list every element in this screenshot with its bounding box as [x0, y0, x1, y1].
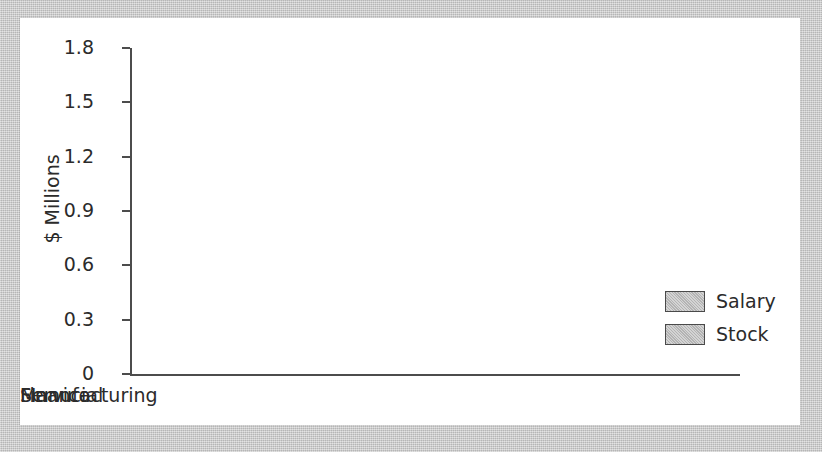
- y-axis-tick: [122, 319, 130, 321]
- y-axis-tick: [122, 156, 130, 158]
- legend-item-salary: Salary: [665, 290, 776, 312]
- y-axis-line: [130, 48, 132, 374]
- legend-swatch-icon: [665, 324, 705, 345]
- y-axis-tick-label: 0: [34, 364, 94, 383]
- y-axis-tick: [122, 264, 130, 266]
- y-axis-tick: [122, 101, 130, 103]
- legend-item-stock: Stock: [665, 323, 776, 345]
- y-axis-tick-label: 0.3: [34, 310, 94, 329]
- x-axis-line: [130, 374, 740, 376]
- y-axis-tick: [122, 47, 130, 49]
- bar-chart-plot-area: $ Millions 1.8 1.5 1.2 0.9 0.6 0.3 0 Man…: [20, 18, 800, 425]
- y-axis-tick: [122, 373, 130, 375]
- legend-swatch-icon: [665, 291, 705, 312]
- chart-figure: $ Millions 1.8 1.5 1.2 0.9 0.6 0.3 0 Man…: [20, 18, 800, 425]
- y-axis-tick-label: 1.2: [34, 147, 94, 166]
- x-axis-category-label: Service: [20, 384, 90, 406]
- y-axis-tick-label: 1.5: [34, 92, 94, 111]
- y-axis-tick: [122, 210, 130, 212]
- chart-legend: Salary Stock: [665, 290, 776, 356]
- y-axis-tick-label: 0.9: [34, 201, 94, 220]
- legend-label: Salary: [716, 290, 776, 312]
- y-axis-tick-label: 0.6: [34, 255, 94, 274]
- legend-label: Stock: [716, 323, 769, 345]
- y-axis-tick-label: 1.8: [34, 38, 94, 57]
